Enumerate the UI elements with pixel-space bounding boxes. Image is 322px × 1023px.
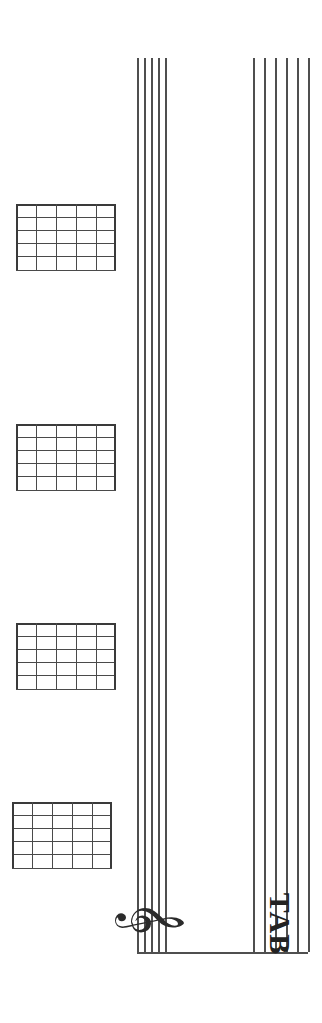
tab-line xyxy=(286,58,288,952)
staff-line xyxy=(151,58,153,952)
tab-line xyxy=(264,58,266,952)
sheet-music-page: Guitar Tablature Page 𝄞 TAB xyxy=(0,0,322,1023)
staff-line xyxy=(158,58,160,952)
tab-line xyxy=(308,58,310,952)
staff-line xyxy=(137,58,139,952)
tab-line xyxy=(253,58,255,952)
notation-system: 𝄞 TAB xyxy=(0,0,322,1023)
staff-line xyxy=(165,58,167,952)
tab-line xyxy=(297,58,299,952)
tab-label: TAB xyxy=(258,893,302,955)
tab-line xyxy=(275,58,277,952)
staff-line xyxy=(144,58,146,952)
treble-clef-icon: 𝄞 xyxy=(128,883,176,953)
